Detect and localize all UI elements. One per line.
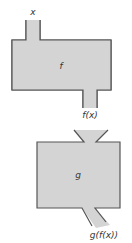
- output-label: g(f(x)): [90, 230, 118, 240]
- input-label: x: [29, 7, 36, 17]
- composition-diagram: x f f(x) g g(f(x)): [0, 0, 132, 243]
- intermediate-label: f(x): [82, 110, 98, 120]
- machine-g-label: g: [75, 170, 81, 180]
